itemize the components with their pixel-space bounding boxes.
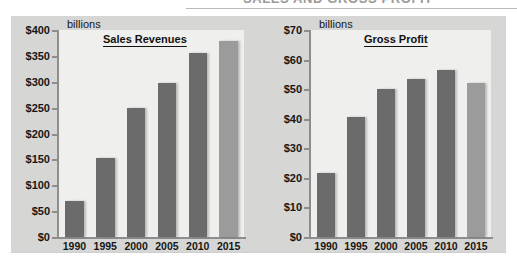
x-axis-profit <box>309 237 493 239</box>
x-tick-label-sales-1995: 1995 <box>94 240 117 252</box>
y-tick-label-sales-1: $50 <box>32 205 50 217</box>
y-tick-profit-1 <box>304 207 309 209</box>
y-tick-label-profit-2: $20 <box>284 172 302 184</box>
bar-profit-2000 <box>377 89 395 237</box>
y-axis-units-profit: billions <box>319 18 353 30</box>
y-tick-profit-7 <box>304 30 309 32</box>
bars-sales <box>59 30 244 237</box>
y-tick-sales-8 <box>52 30 57 32</box>
bar-profit-1995 <box>347 117 365 237</box>
bar-sales-2015 <box>219 41 238 237</box>
y-tick-label-profit-5: $50 <box>284 83 302 95</box>
y-tick-profit-6 <box>304 60 309 62</box>
y-tick-label-sales-5: $250 <box>26 102 50 114</box>
y-tick-label-sales-8: $400 <box>26 24 50 36</box>
y-tick-label-sales-2: $100 <box>26 179 50 191</box>
y-tick-label-profit-3: $30 <box>284 142 302 154</box>
x-tick-label-profit-2005: 2005 <box>404 240 427 252</box>
y-tick-label-profit-4: $40 <box>284 113 302 125</box>
y-tick-label-profit-1: $10 <box>284 201 302 213</box>
y-tick-profit-5 <box>304 89 309 91</box>
chart-gross-profit: $0$10$20$30$40$50$60$70 billions Gross P… <box>259 16 506 252</box>
x-tick-label-sales-2015: 2015 <box>217 240 240 252</box>
running-head: SALES AND GROSS PROFIT <box>0 0 517 8</box>
footer-divider <box>11 252 506 253</box>
x-tick-label-profit-1995: 1995 <box>344 240 367 252</box>
bar-profit-2015 <box>467 83 485 237</box>
x-tick-label-profit-1990: 1990 <box>314 240 337 252</box>
y-tick-label-sales-0: $0 <box>38 231 50 243</box>
y-tick-label-profit-7: $70 <box>284 24 302 36</box>
bar-sales-2005 <box>158 83 177 237</box>
x-tick-label-sales-2005: 2005 <box>155 240 178 252</box>
y-tick-sales-3 <box>52 159 57 161</box>
x-tick-label-profit-2010: 2010 <box>434 240 457 252</box>
bar-profit-2005 <box>407 79 425 237</box>
y-tick-label-sales-3: $150 <box>26 153 50 165</box>
y-axis-units-sales: billions <box>67 18 101 30</box>
y-tick-sales-7 <box>52 56 57 58</box>
bar-sales-1990 <box>65 201 84 237</box>
y-tick-label-sales-7: $350 <box>26 50 50 62</box>
y-tick-label-profit-0: $0 <box>290 231 302 243</box>
x-axis-sales <box>57 237 246 239</box>
x-tick-label-sales-2000: 2000 <box>124 240 147 252</box>
x-tick-label-profit-2015: 2015 <box>464 240 487 252</box>
y-tick-profit-4 <box>304 119 309 121</box>
x-tick-label-sales-1990: 1990 <box>63 240 86 252</box>
header-divider <box>186 8 517 9</box>
bar-profit-2010 <box>437 70 455 237</box>
y-tick-label-sales-4: $200 <box>26 128 50 140</box>
bar-profit-1990 <box>317 173 335 237</box>
y-tick-sales-2 <box>52 185 57 187</box>
y-tick-profit-3 <box>304 148 309 150</box>
bar-sales-2010 <box>189 53 208 237</box>
running-head-text: SALES AND GROSS PROFIT <box>243 0 433 6</box>
y-tick-profit-2 <box>304 178 309 180</box>
charts-band: $0$50$100$150$200$250$300$350$400 billio… <box>11 16 506 252</box>
bar-sales-1995 <box>96 158 115 237</box>
y-tick-label-sales-6: $300 <box>26 76 50 88</box>
x-tick-label-sales-2010: 2010 <box>186 240 209 252</box>
y-tick-sales-1 <box>52 211 57 213</box>
bars-profit <box>311 30 491 237</box>
x-tick-label-profit-2000: 2000 <box>374 240 397 252</box>
y-tick-sales-4 <box>52 134 57 136</box>
y-tick-label-profit-6: $60 <box>284 54 302 66</box>
y-tick-sales-5 <box>52 108 57 110</box>
bar-sales-2000 <box>127 108 146 237</box>
y-tick-sales-6 <box>52 82 57 84</box>
chart-sales-revenues: $0$50$100$150$200$250$300$350$400 billio… <box>11 16 259 252</box>
